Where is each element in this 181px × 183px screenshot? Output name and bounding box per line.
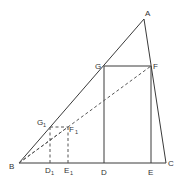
label-A: A xyxy=(145,9,151,18)
label-F: F xyxy=(153,62,158,71)
label-B: B xyxy=(9,162,14,171)
label-E1: E xyxy=(64,166,69,175)
label-E1-sub: 1 xyxy=(70,170,73,176)
label-F1-sub: 1 xyxy=(75,129,78,135)
label-D1-sub: 1 xyxy=(51,170,54,176)
segment-BF1 xyxy=(19,127,68,163)
label-F1: F xyxy=(69,125,74,134)
label-G: G xyxy=(95,62,101,71)
label-E: E xyxy=(148,168,153,177)
label-D: D xyxy=(101,168,107,177)
label-C: C xyxy=(168,159,174,168)
segment-AB xyxy=(19,19,144,163)
diagram-svg: A B C G F D E G 1 F 1 D 1 E 1 xyxy=(0,0,181,183)
label-G1-sub: 1 xyxy=(43,122,46,128)
segment-AC xyxy=(144,19,166,163)
geometry-diagram: A B C G F D E G 1 F 1 D 1 E 1 xyxy=(0,0,181,183)
